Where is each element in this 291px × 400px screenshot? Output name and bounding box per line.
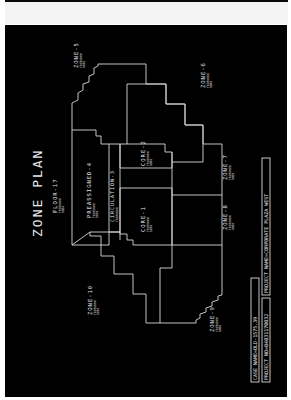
preassigned-4-label: PREASSIGNED-4 TRIFUNNN 1030: [86, 162, 99, 218]
svg-text:1000: 1000: [149, 159, 153, 166]
svg-text:1000: 1000: [209, 81, 213, 88]
zone-7-label: ZONE-7 TRIFUNNN 1000: [222, 154, 235, 180]
core-1-boundary: [120, 188, 172, 245]
zone-9-label: ZONE-9 TRIFUNNN 1000: [209, 306, 222, 332]
svg-text:1000: 1000: [61, 206, 65, 213]
zone-plan-drawing: ZONE PLAN FLOOR-17 TRIFUNNN 1000 ZONE-5 …: [0, 0, 291, 400]
zone-6-label: ZONE-6 TRIFUNNN 1000: [200, 62, 213, 88]
zone-5-label: ZONE-5 TRIFUNNN 1030: [73, 42, 86, 68]
svg-text:1030: 1030: [95, 211, 99, 218]
svg-text:1000: 1000: [218, 325, 222, 332]
page-title: ZONE PLAN: [30, 149, 45, 237]
zone-8-label: ZONE-8 TRIFUNNN 1000: [222, 204, 235, 230]
zone-10-label: ZONE-10 TRIFUNNN 1030: [87, 285, 100, 315]
core-divider: [160, 152, 172, 323]
svg-text:1030: 1030: [149, 225, 153, 232]
svg-text:1000: 1000: [231, 223, 235, 230]
floor-label: FLOOR-17 TRIFUNNN 1000: [52, 179, 65, 214]
core-1-label: CORE-1 TRIFUNNN 1030: [140, 206, 153, 232]
project-name-text: PROJECT NAME=CORPORATE PLAZA WEST: [263, 194, 269, 293]
svg-text:TRIFUNNN: TRIFUNNN: [115, 207, 119, 222]
svg-text:1030: 1030: [96, 308, 100, 315]
circulation-3-label: CIRCULATION-3 TRIFUNNN: [109, 170, 119, 222]
project-no-text: PROJECT NO=04031170032: [263, 314, 269, 380]
svg-text:1030: 1030: [82, 61, 86, 68]
case-name-text: CASE NAME=OLD-1575.39: [252, 317, 258, 380]
building-outline: [72, 64, 222, 323]
svg-text:1000: 1000: [231, 173, 235, 180]
